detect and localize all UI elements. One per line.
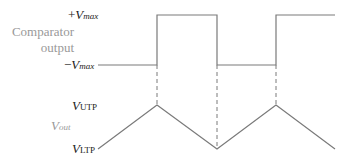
comparator-square-wave [98,15,335,65]
transition-dashed-lines [157,65,276,149]
waveform-diagram [0,0,352,161]
